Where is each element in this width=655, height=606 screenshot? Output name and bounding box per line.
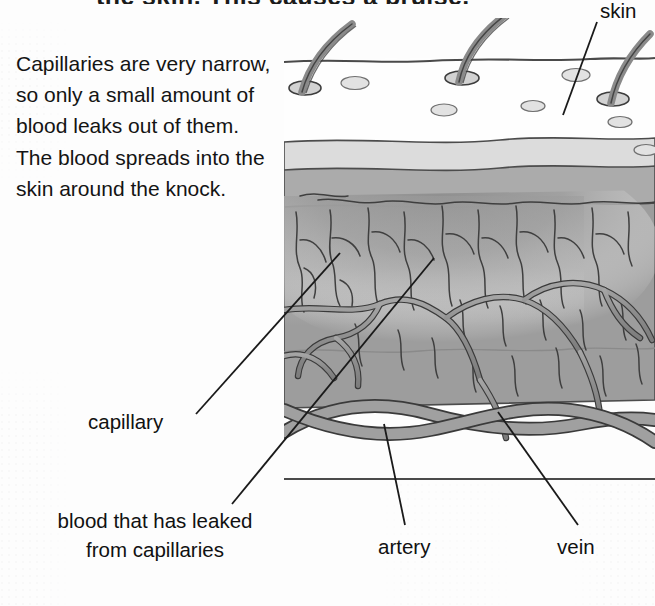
explanatory-paragraph: Capillaries are very narrow, so only a s… [16,48,271,204]
label-capillary: capillary [88,409,163,434]
label-artery: artery [378,534,430,559]
label-skin: skin [600,0,636,23]
label-vein: vein [557,534,595,559]
label-leaked-blood: blood that has leaked from capillaries [55,506,255,564]
diagram-panel [250,16,655,480]
page-canvas: the skin. This causes a bruise. [0,0,655,606]
